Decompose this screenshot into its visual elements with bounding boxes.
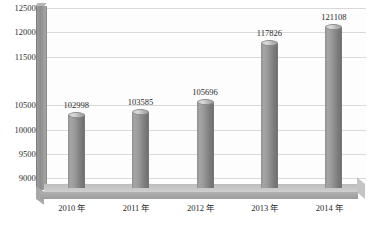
- bar-chart: 1250001200001150001050001000009500090000…: [0, 0, 372, 231]
- left-wall: [36, 6, 47, 190]
- bar-top-cap: [261, 40, 278, 46]
- bar-body: [325, 27, 342, 188]
- bar-body: [68, 115, 85, 188]
- bar-value-label: 117826: [234, 29, 304, 38]
- y-axis-tick-label: 95000: [0, 150, 40, 159]
- bar-value-label: 103585: [106, 98, 176, 107]
- floor-front-face: [40, 192, 358, 199]
- bar-body: [197, 102, 214, 188]
- category-label: 2012 年: [166, 204, 236, 213]
- bar[interactable]: [132, 112, 149, 188]
- y-axis-tick-label: 100000: [0, 126, 40, 135]
- bar[interactable]: [261, 43, 278, 188]
- bar-body: [261, 43, 278, 188]
- category-label: 2011 年: [102, 204, 172, 213]
- bar-value-label: 105696: [170, 88, 240, 97]
- bar-body: [132, 112, 149, 188]
- bar-top-cap: [68, 112, 85, 118]
- bar-top-cap: [197, 99, 214, 105]
- category-label: 2014 年: [295, 204, 365, 213]
- bar-value-label: 121108: [299, 13, 369, 22]
- y-axis-tick-label: 105000: [0, 101, 40, 110]
- category-label: 2013 年: [230, 204, 300, 213]
- gridline: [44, 32, 366, 33]
- y-axis-tick-label: 115000: [0, 53, 40, 62]
- gridline: [44, 57, 366, 58]
- bar[interactable]: [197, 102, 214, 188]
- y-axis-tick-label: 90000: [0, 174, 40, 183]
- bar-value-label: 102998: [41, 101, 111, 110]
- bar[interactable]: [68, 115, 85, 188]
- bar[interactable]: [325, 27, 342, 188]
- category-label: 2010 年: [37, 204, 107, 213]
- bar-top-cap: [325, 24, 342, 30]
- y-axis-tick-label: 120000: [0, 28, 40, 37]
- gridline: [44, 8, 366, 9]
